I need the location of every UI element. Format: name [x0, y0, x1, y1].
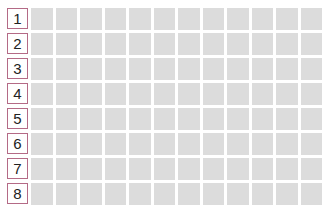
- row-label: 7: [7, 158, 28, 179]
- grid-cell: [276, 8, 298, 30]
- grid-cell: [203, 158, 225, 180]
- grid-cell: [31, 183, 53, 205]
- grid-cell: [154, 183, 176, 205]
- grid-cell: [301, 58, 323, 80]
- grid-cell: [252, 183, 274, 205]
- grid-cell: [227, 158, 249, 180]
- row-label: 5: [7, 108, 28, 129]
- grid-cell: [301, 33, 323, 55]
- grid-cell: [129, 133, 151, 155]
- grid-cell: [80, 183, 102, 205]
- grid-cell: [31, 58, 53, 80]
- grid-cell: [56, 33, 78, 55]
- grid-cell: [203, 33, 225, 55]
- grid-cell: [56, 133, 78, 155]
- grid-cell: [178, 108, 200, 130]
- grid-cell: [129, 158, 151, 180]
- grid-cell: [178, 33, 200, 55]
- grid-cell: [154, 158, 176, 180]
- grid-cell: [56, 158, 78, 180]
- grid-row: 7: [7, 158, 325, 180]
- grid-cell: [129, 8, 151, 30]
- grid-cell: [80, 83, 102, 105]
- grid-cell: [276, 183, 298, 205]
- grid-cell: [252, 33, 274, 55]
- grid-cell: [178, 83, 200, 105]
- grid-row: 2: [7, 33, 325, 55]
- grid-cell: [105, 108, 127, 130]
- grid-cell: [203, 108, 225, 130]
- grid-cell: [227, 183, 249, 205]
- grid-cell: [252, 108, 274, 130]
- grid-cell: [203, 58, 225, 80]
- grid-cell: [301, 108, 323, 130]
- grid-cell: [80, 133, 102, 155]
- row-label: 8: [7, 183, 28, 204]
- grid-cell: [227, 33, 249, 55]
- grid-cell: [276, 33, 298, 55]
- grid-cell: [31, 133, 53, 155]
- grid-cell: [178, 58, 200, 80]
- grid-cell: [105, 58, 127, 80]
- grid-cell: [227, 108, 249, 130]
- grid-cell: [227, 58, 249, 80]
- grid-cell: [31, 158, 53, 180]
- grid-cell: [301, 183, 323, 205]
- grid-cell: [31, 33, 53, 55]
- grid-cell: [252, 58, 274, 80]
- grid-cell: [105, 33, 127, 55]
- grid-cell: [203, 133, 225, 155]
- grid-cell: [129, 83, 151, 105]
- grid-cell: [105, 183, 127, 205]
- grid-cell: [301, 158, 323, 180]
- grid-row: 5: [7, 108, 325, 130]
- grid-cell: [105, 8, 127, 30]
- grid-cell: [31, 108, 53, 130]
- grid-cell: [178, 8, 200, 30]
- grid-row: 4: [7, 83, 325, 105]
- row-label: 6: [7, 133, 28, 154]
- grid-cell: [276, 158, 298, 180]
- grid-cell: [154, 133, 176, 155]
- grid-cell: [301, 83, 323, 105]
- grid-cell: [80, 158, 102, 180]
- grid-cell: [56, 108, 78, 130]
- grid-cell: [276, 83, 298, 105]
- grid-cell: [56, 58, 78, 80]
- numbered-grid: 12345678: [7, 8, 325, 208]
- grid-cell: [154, 8, 176, 30]
- grid-cell: [178, 183, 200, 205]
- grid-cell: [56, 183, 78, 205]
- grid-cell: [276, 133, 298, 155]
- grid-cell: [301, 133, 323, 155]
- grid-cell: [276, 108, 298, 130]
- grid-cell: [252, 158, 274, 180]
- grid-cell: [80, 58, 102, 80]
- grid-cell: [227, 8, 249, 30]
- grid-row: 1: [7, 8, 325, 30]
- grid-cell: [154, 58, 176, 80]
- row-label: 4: [7, 83, 28, 104]
- grid-cell: [203, 8, 225, 30]
- grid-cell: [56, 8, 78, 30]
- grid-cell: [105, 158, 127, 180]
- grid-row: 6: [7, 133, 325, 155]
- grid-cell: [276, 58, 298, 80]
- row-label: 1: [7, 8, 28, 29]
- grid-cell: [129, 108, 151, 130]
- grid-cell: [80, 8, 102, 30]
- grid-cell: [227, 83, 249, 105]
- row-label: 2: [7, 33, 28, 54]
- grid-cell: [203, 83, 225, 105]
- grid-cell: [154, 108, 176, 130]
- grid-cell: [154, 33, 176, 55]
- grid-cell: [227, 133, 249, 155]
- grid-cell: [252, 133, 274, 155]
- grid-row: 8: [7, 183, 325, 205]
- grid-cell: [203, 183, 225, 205]
- grid-cell: [105, 83, 127, 105]
- grid-cell: [129, 58, 151, 80]
- grid-cell: [31, 83, 53, 105]
- grid-cell: [56, 83, 78, 105]
- grid-cell: [154, 83, 176, 105]
